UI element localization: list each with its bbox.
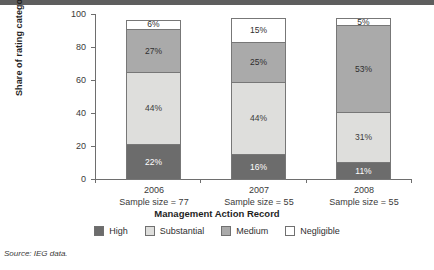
x-category-sample-size: Sample size = 55 — [199, 197, 319, 207]
x-category-year: 2008 — [304, 185, 424, 195]
y-tick-label-100: 100 — [71, 9, 86, 19]
segment-2007-medium[interactable]: 25% — [231, 42, 286, 83]
segment-label: 31% — [355, 133, 372, 142]
y-tick-label-80: 80 — [76, 42, 86, 52]
segment-2008-medium[interactable]: 53% — [336, 25, 391, 112]
segment-2007-negligible[interactable]: 15% — [231, 18, 286, 43]
legend-label-negligible: Negligible — [300, 226, 340, 236]
y-axis-title: Share of rating category (%) — [14, 0, 24, 96]
y-tick-40: 40 — [91, 113, 95, 114]
legend-swatch-negligible-icon — [285, 226, 295, 236]
x-category-2006: 2006 Sample size = 77 — [94, 185, 214, 207]
x-category-2007: 2007 Sample size = 55 — [199, 185, 319, 207]
segment-label: 44% — [145, 104, 162, 113]
y-tick-100: 100 — [91, 14, 95, 15]
chart-legend: High Substantial Medium Negligible — [0, 226, 434, 236]
segment-label: 22% — [145, 158, 162, 167]
x-category-year: 2007 — [199, 185, 319, 195]
y-tick-label-60: 60 — [76, 75, 86, 85]
legend-item-negligible[interactable]: Negligible — [285, 226, 340, 236]
segment-label: 11% — [355, 167, 371, 176]
legend-label-substantial: Substantial — [160, 226, 205, 236]
x-category-2008: 2008 Sample size = 55 — [304, 185, 424, 207]
segment-2008-high[interactable]: 11% — [336, 162, 391, 180]
y-tick-20: 20 — [91, 146, 95, 147]
legend-item-medium[interactable]: Medium — [221, 226, 268, 236]
x-axis-title: Management Action Record — [0, 208, 434, 219]
bar-2007[interactable]: 15% 25% 44% 16% — [231, 18, 286, 179]
source-note: Source: IEG data. — [4, 249, 68, 258]
x-category-sample-size: Sample size = 55 — [304, 197, 424, 207]
figure-container: Share of rating category (%) 100 80 60 4… — [0, 0, 434, 270]
y-tick-label-40: 40 — [76, 108, 86, 118]
x-category-sample-size: Sample size = 77 — [94, 197, 214, 207]
legend-label-medium: Medium — [236, 226, 268, 236]
y-tick-60: 60 — [91, 80, 95, 81]
segment-2006-medium[interactable]: 27% — [126, 29, 181, 74]
x-tick-start — [95, 179, 96, 183]
y-tick-label-20: 20 — [76, 141, 86, 151]
segment-label: 16% — [250, 163, 267, 172]
x-tick-1 — [200, 179, 201, 183]
page-top-band — [0, 0, 434, 5]
legend-item-high[interactable]: High — [94, 226, 128, 236]
legend-swatch-substantial-icon — [145, 226, 155, 236]
legend-item-substantial[interactable]: Substantial — [145, 226, 205, 236]
segment-2006-high[interactable]: 22% — [126, 144, 181, 180]
segment-2007-substantial[interactable]: 44% — [231, 82, 286, 155]
segment-label: 27% — [145, 47, 162, 56]
x-tick-end — [411, 179, 412, 183]
plot-area: 100 80 60 40 20 0 6% 27% — [95, 14, 412, 179]
y-tick-label-0: 0 — [81, 174, 86, 184]
x-category-year: 2006 — [94, 185, 214, 195]
bar-2006[interactable]: 6% 27% 44% 22% — [126, 20, 181, 179]
segment-2008-substantial[interactable]: 31% — [336, 112, 391, 163]
segment-label: 15% — [250, 26, 267, 35]
segment-label: 53% — [355, 65, 372, 74]
legend-swatch-high-icon — [94, 226, 104, 236]
y-tick-80: 80 — [91, 47, 95, 48]
segment-2006-substantial[interactable]: 44% — [126, 72, 181, 145]
legend-swatch-medium-icon — [221, 226, 231, 236]
legend-label-high: High — [109, 226, 128, 236]
bar-2008[interactable]: 5% 53% 31% 11% — [336, 18, 391, 179]
segment-label: 25% — [250, 58, 267, 67]
segment-label: 44% — [250, 114, 267, 123]
y-axis-line — [95, 14, 96, 179]
segment-2007-high[interactable]: 16% — [231, 154, 286, 180]
x-tick-2 — [306, 179, 307, 183]
